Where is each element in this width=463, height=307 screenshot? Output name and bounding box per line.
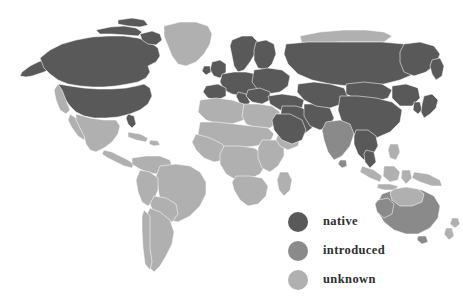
region-canada-arctic-islands-2	[118, 18, 148, 27]
legend-swatch-native-icon	[288, 212, 308, 232]
region-sri-lanka	[338, 160, 347, 168]
region-new-guinea	[412, 172, 442, 186]
region-finland-baltic	[254, 40, 276, 70]
map-legend: native introduced unknown	[288, 207, 458, 294]
region-ireland	[202, 66, 211, 75]
region-canada	[40, 36, 160, 87]
region-india	[322, 120, 354, 160]
region-kamchatka	[430, 58, 444, 80]
region-sumatra	[360, 166, 382, 182]
region-greenland	[164, 22, 212, 66]
region-group-south-america	[132, 156, 206, 272]
region-central-america	[102, 150, 134, 168]
region-iberia	[203, 84, 226, 100]
legend-item-native[interactable]: native	[288, 207, 458, 236]
region-mexico	[76, 114, 120, 152]
region-group-asia	[268, 30, 444, 190]
region-japan	[421, 94, 438, 118]
region-borneo	[383, 166, 400, 182]
region-southern-africa	[232, 176, 268, 206]
legend-swatch-introduced-icon	[288, 241, 308, 261]
region-united-states	[58, 84, 152, 118]
region-sulawesi	[401, 170, 412, 184]
region-us-florida	[126, 114, 136, 128]
world-map-figure: native introduced unknown	[0, 0, 463, 307]
region-indochina-peninsula	[364, 150, 376, 168]
region-madagascar	[277, 172, 292, 196]
legend-label-introduced: introduced	[323, 243, 385, 258]
region-korea	[413, 102, 422, 114]
region-cuba	[128, 132, 148, 142]
region-group-north-america	[20, 18, 212, 168]
region-canada-arctic-islands	[96, 26, 142, 36]
region-hispaniola	[149, 140, 160, 146]
legend-label-native: native	[323, 214, 358, 229]
legend-label-unknown: unknown	[323, 272, 376, 287]
legend-swatch-unknown-icon	[288, 270, 308, 290]
region-philippines	[388, 144, 400, 160]
legend-item-introduced[interactable]: introduced	[288, 236, 458, 265]
legend-item-unknown[interactable]: unknown	[288, 265, 458, 294]
